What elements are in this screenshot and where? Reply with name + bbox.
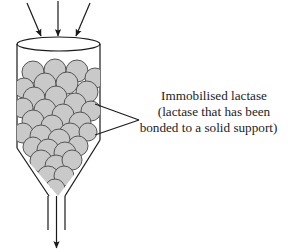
vessel-top-rim-ellipse xyxy=(17,37,100,51)
diagram-canvas: Immobilised lactase (lactase that has be… xyxy=(0,0,288,252)
immobilised-lactase-bead-bed xyxy=(13,59,105,199)
leader-prong-lower xyxy=(95,120,139,135)
leader-prong-upper xyxy=(95,104,139,120)
column-reactor-illustration xyxy=(0,0,288,252)
inlet-arrow-left xyxy=(27,3,41,36)
inlet-arrow-right xyxy=(76,3,90,36)
annotation-leader-line xyxy=(95,104,139,135)
inlet-arrow-group xyxy=(27,1,90,36)
